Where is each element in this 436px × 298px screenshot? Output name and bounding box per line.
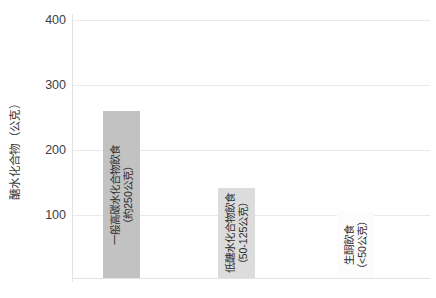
bar-chart: 醣水化合物（公克） 400 300 200 100 一般高碳水化合物飲食 （約2… <box>0 0 436 298</box>
bar-low-carb-label-line1: 低醣水化合物飲食 <box>223 193 235 273</box>
y-axis-title-text: 醣水化合物（公克） <box>6 98 22 200</box>
bar-high-carb-label-line2: （約250公克） <box>122 145 135 245</box>
bar-low-carb[interactable]: 低醣水化合物飲食 （50-125公克） <box>218 188 255 278</box>
gridline-400 <box>72 20 430 21</box>
bar-keto[interactable]: 生酮飲食 （<50公克） <box>337 212 374 278</box>
y-tick-200: 200 <box>24 144 66 157</box>
bar-low-carb-label-line2: （50-125公克） <box>237 193 250 273</box>
plot-area: 一般高碳水化合物飲食 （約250公克） 低醣水化合物飲食 （50-125公克） … <box>72 14 430 282</box>
bar-high-carb[interactable]: 一般高碳水化合物飲食 （約250公克） <box>103 111 140 278</box>
y-tick-100: 100 <box>24 209 66 222</box>
x-axis-baseline <box>72 278 430 279</box>
bar-high-carb-label: 一般高碳水化合物飲食 （約250公克） <box>108 145 134 245</box>
bar-high-carb-label-line1: 一般高碳水化合物飲食 <box>108 145 120 245</box>
bar-keto-label: 生酮飲食 （<50公克） <box>342 216 368 274</box>
bar-keto-label-line1: 生酮飲食 <box>342 225 354 265</box>
bar-keto-label-line2: （<50公克） <box>356 216 369 274</box>
bar-low-carb-label: 低醣水化合物飲食 （50-125公克） <box>223 193 249 273</box>
y-axis-spine <box>72 14 73 282</box>
y-tick-300: 300 <box>24 79 66 92</box>
y-axis-tick-labels: 400 300 200 100 <box>24 0 66 298</box>
gridline-300 <box>72 85 430 86</box>
y-tick-400: 400 <box>24 14 66 27</box>
